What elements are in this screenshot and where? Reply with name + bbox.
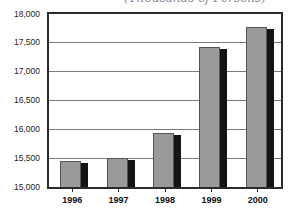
bar-shadow-2000	[267, 29, 274, 187]
bar-shadow-1997	[128, 160, 135, 187]
y-tick-label-15500: 15,500	[0, 153, 40, 163]
x-tick-1997	[118, 189, 119, 192]
bar-1998	[153, 133, 174, 187]
x-tick-label-1996: 1996	[52, 195, 92, 205]
bar-shadow-1996	[81, 163, 88, 187]
y-tick-label-17500: 17,500	[0, 37, 40, 47]
chart-title-text: (Thousands of Persons)	[92, 0, 298, 5]
bar-1999	[199, 47, 220, 187]
y-tick-label-17000: 17,000	[0, 66, 40, 76]
bar-2000	[246, 27, 267, 187]
x-tick-2000	[257, 189, 258, 192]
bar-chart: (Thousands of Persons) 18,00017,50017,00…	[0, 0, 298, 223]
y-tick-label-16500: 16,500	[0, 95, 40, 105]
bar-1996	[60, 161, 81, 187]
x-tick-1999	[211, 189, 212, 192]
x-tick-label-1999: 1999	[191, 195, 231, 205]
bar-1997	[107, 158, 128, 187]
x-tick-1998	[165, 189, 166, 192]
bar-shadow-1999	[220, 49, 227, 187]
y-tick-label-18000: 18,000	[0, 9, 40, 19]
x-tick-label-1998: 1998	[145, 195, 185, 205]
y-tick-label-15000: 15,000	[0, 182, 40, 192]
chart-title-clipped: (Thousands of Persons)	[92, 0, 298, 6]
x-tick-label-2000: 2000	[238, 195, 278, 205]
plot-area	[47, 12, 283, 189]
y-tick-label-16000: 16,000	[0, 124, 40, 134]
x-tick-1996	[72, 189, 73, 192]
x-tick-label-1997: 1997	[99, 195, 139, 205]
bar-shadow-1998	[174, 135, 181, 187]
